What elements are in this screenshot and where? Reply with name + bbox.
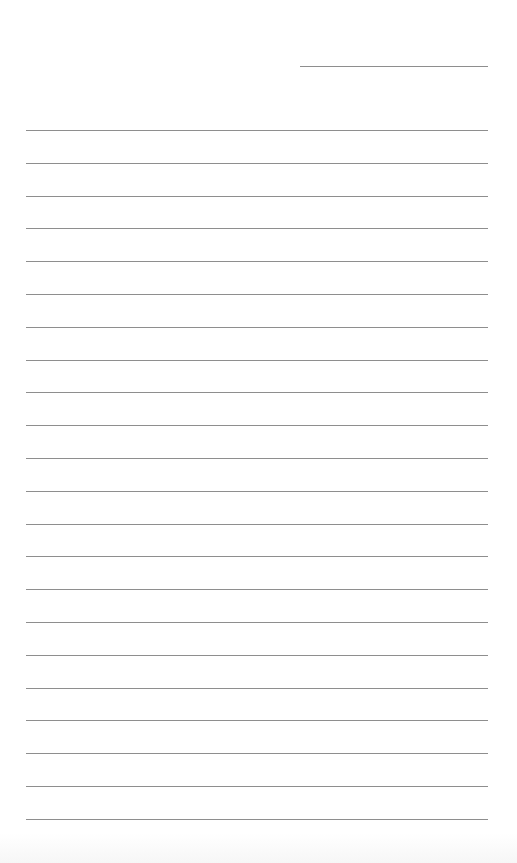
ruled-line xyxy=(26,163,488,164)
ruled-line xyxy=(26,688,488,689)
ruled-line xyxy=(26,556,488,557)
ruled-line xyxy=(26,491,488,492)
ruled-line xyxy=(26,622,488,623)
name-line xyxy=(300,66,488,67)
ruled-line xyxy=(26,228,488,229)
ruled-line xyxy=(26,294,488,295)
ruled-line xyxy=(26,524,488,525)
ruled-line xyxy=(26,261,488,262)
ruled-line xyxy=(26,589,488,590)
ruled-line xyxy=(26,786,488,787)
ruled-line xyxy=(26,360,488,361)
ruled-line xyxy=(26,327,488,328)
ruled-line xyxy=(26,753,488,754)
ruled-line xyxy=(26,196,488,197)
ruled-line xyxy=(26,819,488,820)
ruled-line xyxy=(26,655,488,656)
ruled-line xyxy=(26,392,488,393)
ruled-line xyxy=(26,425,488,426)
ruled-line xyxy=(26,130,488,131)
ruled-line xyxy=(26,720,488,721)
page-bottom-shading xyxy=(0,833,517,863)
ruled-line xyxy=(26,458,488,459)
